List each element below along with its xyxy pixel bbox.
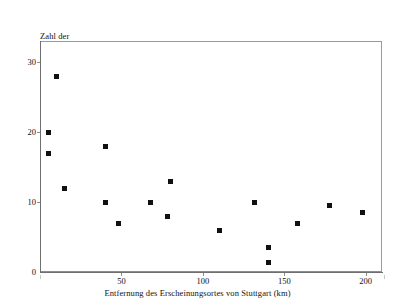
y-tick-mark-10	[37, 202, 40, 203]
y-axis-line	[40, 41, 41, 273]
x-tick-label-200: 200	[351, 276, 381, 286]
data-point	[266, 245, 271, 250]
y-tick-label-30: 30	[14, 57, 36, 67]
y-tick-label-0: 0	[14, 267, 36, 277]
x-tick-label-100: 100	[188, 276, 218, 286]
x-tick-label-150: 150	[269, 276, 299, 286]
data-point	[168, 179, 173, 184]
data-point	[103, 200, 108, 205]
y-tick-label-20: 20	[14, 127, 36, 137]
x-tick-mark-100	[203, 273, 204, 276]
x-axis-end-tick-left	[40, 275, 41, 279]
data-point	[148, 200, 153, 205]
data-point	[217, 228, 222, 233]
x-axis-end-tick-right	[384, 275, 385, 279]
data-point	[62, 186, 67, 191]
data-point	[165, 214, 170, 219]
y-tick-mark-20	[37, 132, 40, 133]
plot-area	[40, 41, 382, 272]
scatter-chart-figure: Zahl der Übernahmen 0102030 50100150200 …	[0, 0, 395, 308]
data-point	[327, 203, 332, 208]
data-point	[54, 74, 59, 79]
x-axis-line	[40, 272, 383, 273]
data-point	[360, 210, 365, 215]
data-point	[266, 260, 271, 265]
data-point	[116, 221, 121, 226]
data-point	[252, 200, 257, 205]
data-point	[295, 221, 300, 226]
x-axis-title: Entfernung des Erscheinungsortes von Stu…	[0, 288, 395, 298]
x-tick-mark-200	[366, 273, 367, 276]
data-point	[46, 130, 51, 135]
x-tick-label-50: 50	[106, 276, 136, 286]
data-point	[103, 144, 108, 149]
y-tick-mark-30	[37, 62, 40, 63]
y-tick-label-10: 10	[14, 197, 36, 207]
x-tick-mark-50	[121, 273, 122, 276]
data-point	[46, 151, 51, 156]
x-tick-mark-150	[284, 273, 285, 276]
